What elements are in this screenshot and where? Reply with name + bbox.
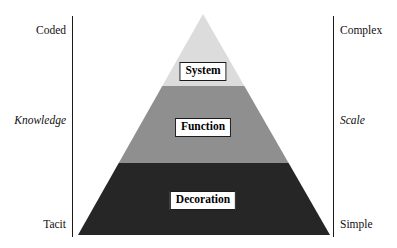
tier-label-decoration: Decoration	[170, 191, 236, 210]
tier-label-function: Function	[175, 118, 231, 137]
tier-label-system: System	[179, 62, 226, 81]
pyramid-diagram: Coded Knowledge Tacit Complex Scale Simp…	[0, 0, 397, 248]
